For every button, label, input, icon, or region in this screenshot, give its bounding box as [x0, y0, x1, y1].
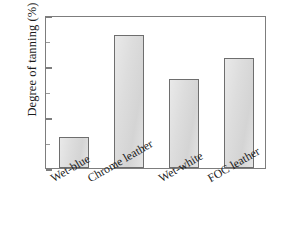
bar-series	[46, 17, 265, 168]
bar-chart-figure: Degree of tanning (%) 0204060 Wet-blueCh…	[0, 0, 282, 245]
plot-area	[45, 16, 266, 169]
y-axis-title: Degree of tanning (%)	[25, 0, 40, 140]
